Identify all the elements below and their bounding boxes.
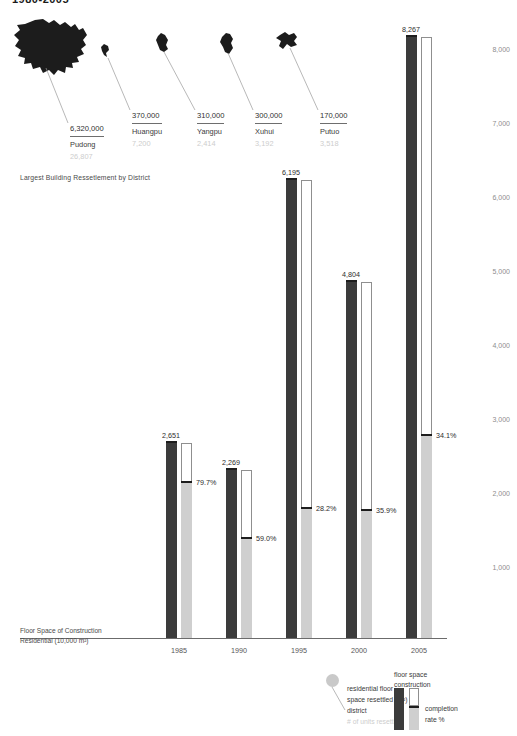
district-callout-pudong: 6,320,000 Pudong 26,807	[70, 123, 104, 162]
y-axis-caption-line2: Residential (10,000 m²)	[20, 636, 102, 646]
bar-value-label: 4,804	[331, 270, 371, 279]
bar-value-label: 2,651	[151, 431, 191, 440]
district-callout-putuo: 170,000 Putuo 3,518	[320, 110, 347, 149]
district-units: 7,200	[132, 138, 162, 149]
bar-value-label: 2,269	[211, 458, 251, 467]
bar-rate-cap	[361, 509, 372, 511]
resettlement-section-label: Largest Building Ressetlement by Distric…	[20, 174, 150, 181]
district-value: 300,000	[255, 110, 282, 124]
xtick-1990: 1990	[209, 646, 269, 655]
bar-value-label: 6,195	[271, 168, 311, 177]
legend-head-line1: floor space	[394, 670, 431, 680]
bar-rate-fill	[241, 539, 252, 638]
legend-swatch-rate-outline	[409, 688, 419, 706]
bar-rate-label: 79.7%	[196, 478, 216, 487]
xtick-1995: 1995	[269, 646, 329, 655]
ytick-5000: 5,000	[470, 268, 510, 275]
bar-rate-cap	[181, 481, 192, 483]
bar-construction	[406, 37, 417, 638]
leader-lines	[0, 0, 517, 200]
district-name: Yangpu	[197, 124, 224, 137]
bar-construction	[226, 470, 237, 638]
district-name: Putuo	[320, 124, 347, 137]
bar-rate-fill	[421, 436, 432, 638]
district-units: 3,192	[255, 138, 282, 149]
district-callout-yangpu: 310,000 Yangpu 2,414	[197, 110, 224, 149]
district-value: 310,000	[197, 110, 224, 124]
legend: residential floor space resettled (m²) d…	[312, 668, 517, 736]
bar-rate-fill	[301, 509, 312, 638]
ytick-8000: 8,000	[470, 46, 510, 53]
legend-completion-line2: rate %	[425, 715, 458, 726]
bar-value-label: 8,267	[391, 25, 431, 34]
district-name: Huangpu	[132, 124, 162, 137]
bar-rate-fill	[361, 511, 372, 638]
bar-rate-label: 59.0%	[256, 534, 276, 543]
legend-completion-line1: completion	[425, 704, 458, 715]
district-units: 3,518	[320, 138, 347, 149]
bar-rate-fill	[181, 483, 192, 638]
legend-swatch-cap	[409, 706, 419, 708]
xtick-2005: 2005	[389, 646, 449, 655]
ytick-3000: 3,000	[470, 416, 510, 423]
bar-construction	[286, 180, 297, 638]
district-units: 26,807	[70, 151, 104, 162]
ytick-6000: 6,000	[470, 194, 510, 201]
ytick-1000: 1,000	[470, 564, 510, 571]
bar-construction	[346, 282, 357, 638]
legend-swatch-construction	[394, 688, 404, 730]
legend-completion-text: completion rate %	[425, 704, 458, 726]
ytick-2000: 2,000	[470, 490, 510, 497]
district-value: 6,320,000	[70, 123, 104, 137]
bar-rate-cap	[301, 507, 312, 509]
district-units: 2,414	[197, 138, 224, 149]
district-callout-huangpu: 370,000 Huangpu 7,200	[132, 110, 162, 149]
bar-construction	[166, 443, 177, 638]
y-axis-caption: Floor Space of Construction Residential …	[20, 626, 102, 645]
ytick-4000: 4,000	[470, 342, 510, 349]
district-value: 370,000	[132, 110, 162, 124]
bar-rate-label: 34.1%	[436, 431, 456, 440]
ytick-7000: 7,000	[470, 120, 510, 127]
district-name: Pudong	[70, 137, 104, 150]
district-name: Xuhui	[255, 124, 282, 137]
bar-rate-cap	[241, 537, 252, 539]
district-value: 170,000	[320, 110, 347, 124]
legend-swatch-rate-fill	[409, 708, 419, 730]
bar-rate-label: 35.9%	[376, 506, 396, 515]
district-callout-xuhui: 300,000 Xuhui 3,192	[255, 110, 282, 149]
bar-rate-label: 28.2%	[316, 504, 336, 513]
y-axis-caption-line1: Floor Space of Construction	[20, 626, 102, 636]
legend-construction-head: floor space construction	[394, 670, 431, 689]
bar-rate-cap	[421, 434, 432, 436]
xtick-1985: 1985	[149, 646, 209, 655]
xtick-2000: 2000	[329, 646, 389, 655]
